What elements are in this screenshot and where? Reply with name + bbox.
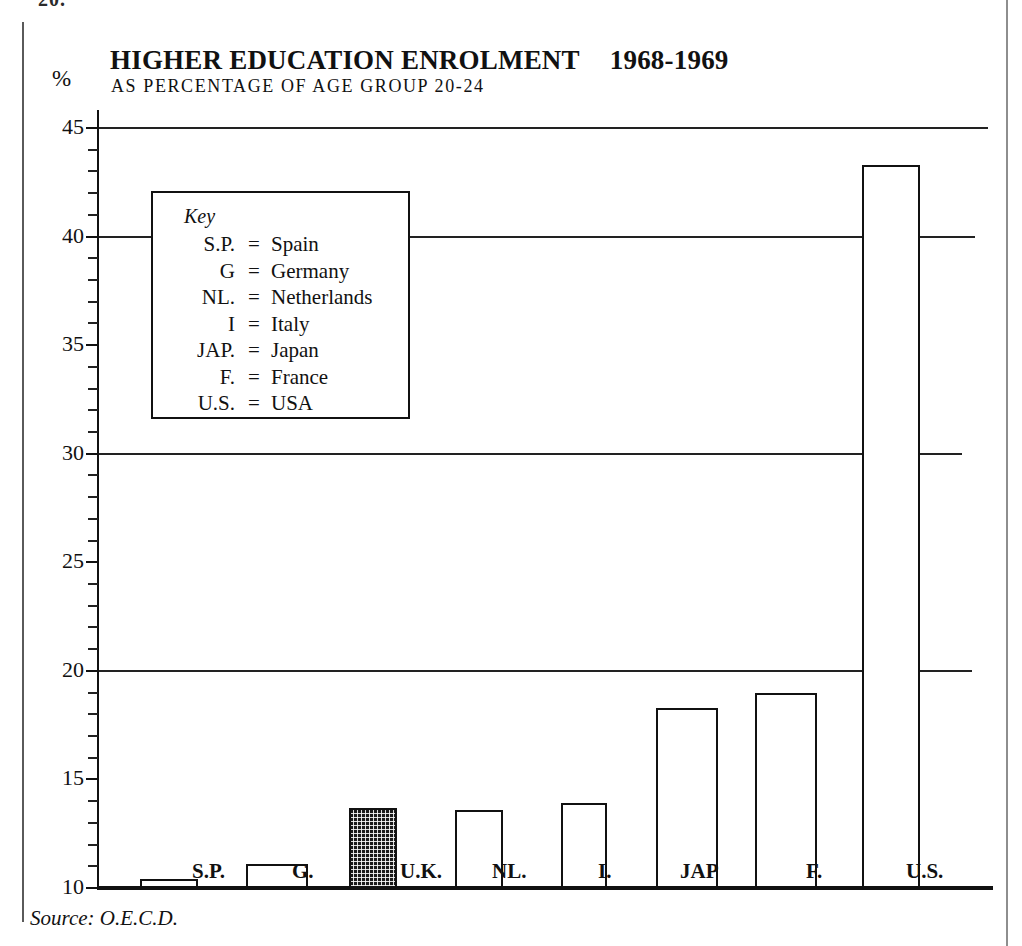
bar-label-g: G. [292, 859, 314, 884]
legend-country-name: USA [264, 390, 313, 417]
legend-entries: S.P.=SpainG=GermanyNL.=NetherlandsI=Ital… [161, 231, 405, 417]
legend-entry: S.P.=Spain [161, 231, 405, 258]
y-tick-minor [88, 735, 98, 737]
y-tick-minor [88, 583, 98, 585]
legend-equals-sign: = [244, 390, 264, 417]
legend-equals-sign: = [244, 337, 264, 364]
y-tick-minor [88, 431, 98, 433]
y-tick-major [86, 453, 99, 455]
legend-entry: F.=France [161, 364, 405, 391]
y-tick-minor [88, 214, 98, 216]
legend-entry: NL.=Netherlands [161, 284, 405, 311]
legend-country-name: Japan [264, 337, 319, 364]
y-tick-label: 35 [40, 331, 84, 357]
legend-country-name: France [264, 364, 328, 391]
y-tick-label: 30 [40, 440, 84, 466]
legend-equals-sign: = [244, 311, 264, 338]
y-tick-minor [88, 257, 98, 259]
y-tick-major [86, 670, 99, 672]
y-tick-minor [88, 800, 98, 802]
gridline [99, 453, 962, 455]
y-tick-major [86, 778, 99, 780]
legend-abbreviation: F. [161, 364, 244, 391]
y-tick-minor [88, 301, 98, 303]
legend-country-name: Germany [264, 258, 349, 285]
legend-country-name: Spain [264, 231, 319, 258]
legend-entry: JAP.=Japan [161, 337, 405, 364]
y-tick-minor [88, 366, 98, 368]
bar-label-us: U.S. [906, 859, 943, 884]
y-tick-minor [88, 170, 98, 172]
legend-country-name: Netherlands [264, 284, 372, 311]
bar-label-f: F. [806, 859, 822, 884]
legend-equals-sign: = [244, 231, 264, 258]
bar-label-jap: JAP [680, 859, 719, 884]
y-tick-minor [88, 192, 98, 194]
y-tick-minor [88, 865, 98, 867]
legend-abbreviation: G [161, 258, 244, 285]
legend-entry: G=Germany [161, 258, 405, 285]
x-axis-baseline [97, 886, 993, 890]
bar-label-sp: S.P. [192, 859, 225, 884]
y-tick-label: 15 [40, 765, 84, 791]
y-tick-minor [88, 149, 98, 151]
bar-label-nl: NL. [492, 859, 526, 884]
y-tick-minor [88, 692, 98, 694]
gridline [99, 127, 988, 129]
bar-uk [349, 808, 397, 888]
y-tick-minor [88, 388, 98, 390]
y-tick-minor [88, 322, 98, 324]
source-note: Source: O.E.C.D. [30, 906, 178, 931]
y-tick-label: 10 [40, 874, 84, 900]
y-tick-minor [88, 409, 98, 411]
y-tick-label: 45 [40, 114, 84, 140]
legend-abbreviation: I [161, 311, 244, 338]
y-tick-minor [88, 713, 98, 715]
legend-abbreviation: S.P. [161, 231, 244, 258]
gridline [99, 670, 972, 672]
y-axis-line [97, 110, 99, 890]
bar-label-i: I. [598, 859, 611, 884]
legend-equals-sign: = [244, 364, 264, 391]
y-tick-major [86, 561, 99, 563]
y-tick-minor [88, 626, 98, 628]
y-tick-minor [88, 518, 98, 520]
y-tick-minor [88, 496, 98, 498]
y-tick-minor [88, 605, 98, 607]
legend-entry: I=Italy [161, 311, 405, 338]
legend-equals-sign: = [244, 258, 264, 285]
y-tick-label: 20 [40, 657, 84, 683]
y-tick-minor [88, 844, 98, 846]
y-tick-minor [88, 279, 98, 281]
legend-country-name: Italy [264, 311, 309, 338]
legend-abbreviation: JAP. [161, 337, 244, 364]
y-tick-minor [88, 648, 98, 650]
legend-abbreviation: NL. [161, 284, 244, 311]
y-tick-label: 25 [40, 548, 84, 574]
y-tick-minor [88, 540, 98, 542]
y-tick-major [86, 344, 99, 346]
y-tick-minor [88, 474, 98, 476]
y-tick-minor [88, 822, 98, 824]
legend-title: Key [184, 205, 215, 228]
legend-equals-sign: = [244, 284, 264, 311]
y-tick-minor [88, 757, 98, 759]
legend-entry: U.S.=USA [161, 390, 405, 417]
legend-abbreviation: U.S. [161, 390, 244, 417]
legend-key-box: Key S.P.=SpainG=GermanyNL.=NetherlandsI=… [151, 191, 410, 419]
chart-plot-area: 1015202530354045 S.P.G.U.K.NL.I.JAPF.U.S… [0, 0, 1022, 946]
y-tick-major [86, 236, 99, 238]
bar-us [862, 165, 920, 888]
y-tick-major [86, 127, 99, 129]
y-tick-label: 40 [40, 223, 84, 249]
bar-label-uk: U.K. [400, 859, 442, 884]
